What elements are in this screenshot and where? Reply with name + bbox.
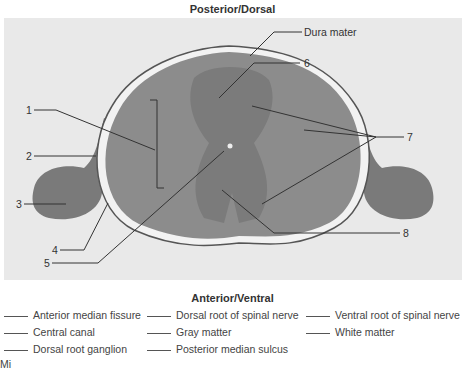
callout-1: 1 [26,104,32,116]
answer-option-dorsal-root[interactable]: Dorsal root of spinal nerve [147,309,299,322]
orientation-anterior-ventral: Anterior/Ventral [0,292,465,304]
answer-blank[interactable] [306,316,330,317]
answer-blank[interactable] [147,316,171,317]
callout-3: 3 [16,198,22,210]
callout-8: 8 [403,227,409,239]
orientation-posterior-dorsal: Posterior/Dorsal [0,3,465,15]
figure-caption: Mi [0,358,11,370]
callout-7: 7 [407,131,413,143]
answer-blank[interactable] [306,333,330,334]
answer-blank[interactable] [147,350,171,351]
spinal-cord-micrograph: Dura mater 1 2 3 4 5 6 7 8 [4,18,462,280]
answer-blank[interactable] [4,350,28,351]
callout-4: 4 [52,244,58,256]
answer-blank[interactable] [147,333,171,334]
answer-blank[interactable] [4,316,28,317]
callout-dura-mater: Dura mater [304,26,357,38]
callout-2: 2 [26,150,32,162]
answer-option-white-matter[interactable]: White matter [306,326,395,339]
callout-6: 6 [304,57,310,69]
micrograph-illustration [4,18,462,280]
answer-option-central-canal[interactable]: Central canal [4,326,95,339]
answer-option-dorsal-root-ganglion[interactable]: Dorsal root ganglion [4,343,127,356]
answer-option-ventral-root[interactable]: Ventral root of spinal nerve [306,309,460,322]
answer-option-gray-matter[interactable]: Gray matter [147,326,231,339]
answer-blank[interactable] [4,333,28,334]
answer-option-anterior-median-fissure[interactable]: Anterior median fissure [4,309,141,322]
callout-5: 5 [44,257,50,269]
answer-option-posterior-median-sulcus[interactable]: Posterior median sulcus [147,343,288,356]
